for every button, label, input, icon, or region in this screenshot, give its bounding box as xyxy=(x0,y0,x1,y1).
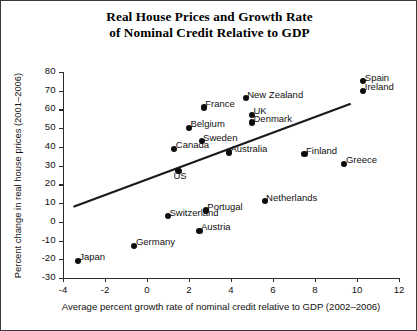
data-point-label: Australia xyxy=(230,144,267,155)
y-tick-label: -30 xyxy=(42,271,56,282)
y-tick-label: 0 xyxy=(50,215,55,226)
x-tick-label: 0 xyxy=(144,284,149,295)
data-point-label: Ireland xyxy=(365,82,394,93)
data-point-label: France xyxy=(205,99,235,110)
y-tick-label: 20 xyxy=(45,177,56,188)
x-tick-label: -2 xyxy=(101,284,110,295)
x-tick-label: 4 xyxy=(228,284,233,295)
data-point-label: Netherlands xyxy=(266,193,317,204)
y-tick-label: 70 xyxy=(45,84,56,95)
data-point-label: Denmark xyxy=(254,114,293,125)
x-tick-label: -4 xyxy=(59,284,68,295)
data-point-label: Greece xyxy=(346,155,377,166)
y-tick-label: 30 xyxy=(45,159,56,170)
data-point-label: Belgium xyxy=(191,119,225,130)
x-tick-label: 8 xyxy=(312,284,317,295)
y-tick-label: 60 xyxy=(45,102,56,113)
data-point-label: Canada xyxy=(176,140,209,151)
data-point[interactable]: Japan xyxy=(75,258,81,264)
chart-figure: Real House Prices and Growth Rate of Nom… xyxy=(0,0,417,331)
data-point[interactable]: New Zealand xyxy=(243,95,249,101)
data-point[interactable]: Australia xyxy=(226,149,232,155)
x-tick-label: 12 xyxy=(394,284,405,295)
y-tick-label: 80 xyxy=(45,65,56,76)
y-tick-label: -20 xyxy=(42,252,56,263)
y-tick-label: 10 xyxy=(45,196,56,207)
data-point-label: Japan xyxy=(79,252,105,263)
chart-title-line-2: of Nominal Credit Relative to GDP xyxy=(1,25,417,41)
x-tick: 12 xyxy=(399,278,400,283)
x-tick-label: 6 xyxy=(270,284,275,295)
data-point-label: Germany xyxy=(136,237,175,248)
data-point[interactable]: Denmark xyxy=(249,119,255,125)
data-point[interactable]: Austria xyxy=(196,228,202,234)
chart-title: Real House Prices and Growth Rate of Nom… xyxy=(1,9,417,40)
y-axis-label: Percent change in real house prices (200… xyxy=(11,72,25,279)
y-tick-label: 40 xyxy=(45,140,56,151)
x-axis-label: Average percent growth rate of nominal c… xyxy=(41,301,401,313)
data-point-label: Finland xyxy=(306,146,337,157)
data-point[interactable]: US xyxy=(175,168,181,174)
data-point-label: Switzerland xyxy=(170,208,219,219)
data-point-label: US xyxy=(173,171,186,182)
plot-area: 80706050403020100-10-20-30 -4-2024681012… xyxy=(63,72,399,279)
x-tick-label: 2 xyxy=(186,284,191,295)
data-point-label: Austria xyxy=(201,222,231,233)
x-tick-label: 10 xyxy=(352,284,363,295)
data-point[interactable]: France xyxy=(201,104,207,110)
y-tick-label: -10 xyxy=(42,234,56,245)
data-point[interactable]: Netherlands xyxy=(262,198,268,204)
data-point-label: New Zealand xyxy=(247,90,303,101)
chart-title-line-1: Real House Prices and Growth Rate xyxy=(106,9,312,24)
y-tick-label: 50 xyxy=(45,121,56,132)
